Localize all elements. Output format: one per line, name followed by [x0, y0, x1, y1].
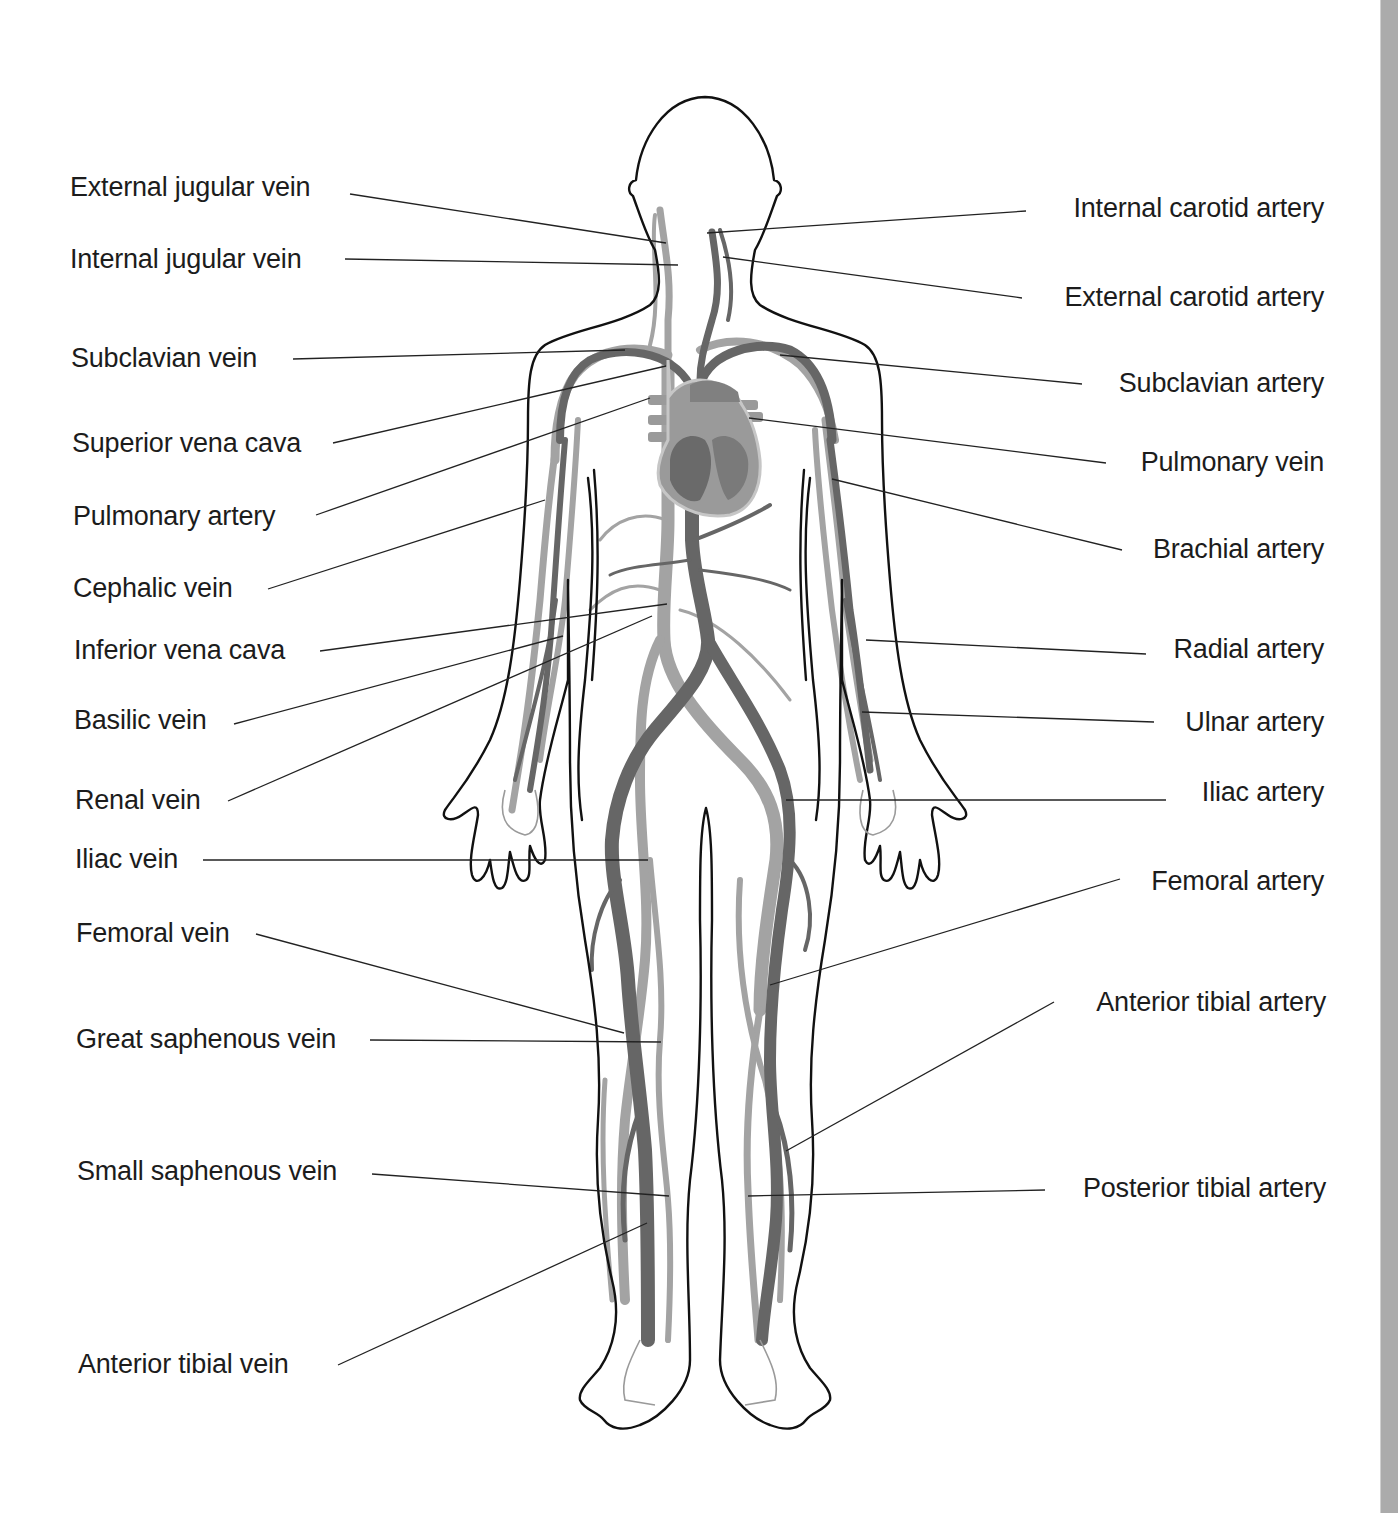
leader-lines: [203, 194, 1166, 1365]
label-inferior-vena-cava: Inferior vena cava: [74, 637, 285, 664]
leader-line: [749, 418, 1106, 463]
label-femoral-vein: Femoral vein: [76, 920, 230, 947]
label-internal-carotid-artery: Internal carotid artery: [1073, 195, 1324, 222]
leader-line: [256, 934, 624, 1033]
label-cephalic-vein: Cephalic vein: [73, 575, 233, 602]
label-pulmonary-artery: Pulmonary artery: [73, 503, 275, 530]
leader-line: [723, 257, 1022, 298]
leader-line: [832, 479, 1122, 550]
vertical-scrollbar[interactable]: [1380, 0, 1398, 1513]
leader-line: [370, 1040, 661, 1042]
leader-line: [707, 211, 1026, 233]
label-external-carotid-artery: External carotid artery: [1064, 284, 1324, 311]
label-femoral-artery: Femoral artery: [1151, 868, 1324, 895]
leader-line: [320, 604, 667, 651]
leader-line: [293, 350, 625, 359]
label-great-saphenous-vein: Great saphenous vein: [76, 1026, 336, 1053]
label-superior-vena-cava: Superior vena cava: [72, 430, 301, 457]
label-radial-artery: Radial artery: [1174, 636, 1324, 663]
label-brachial-artery: Brachial artery: [1153, 536, 1324, 563]
label-basilic-vein: Basilic vein: [74, 707, 207, 734]
label-small-saphenous-vein: Small saphenous vein: [77, 1158, 337, 1185]
circulatory-diagram: External jugular vein Internal jugular v…: [0, 0, 1398, 1513]
label-ulnar-artery: Ulnar artery: [1185, 709, 1324, 736]
leader-line: [770, 879, 1120, 985]
label-anterior-tibial-artery: Anterior tibial artery: [1096, 989, 1326, 1016]
label-posterior-tibial-artery: Posterior tibial artery: [1083, 1175, 1326, 1202]
leader-line: [866, 640, 1146, 654]
leader-line: [333, 366, 666, 443]
label-iliac-artery: Iliac artery: [1202, 779, 1324, 806]
leader-line: [780, 355, 1082, 384]
label-pulmonary-vein: Pulmonary vein: [1141, 449, 1324, 476]
leader-line: [862, 712, 1154, 722]
label-anterior-tibial-vein: Anterior tibial vein: [78, 1351, 289, 1378]
body-illustration: [0, 0, 1398, 1513]
label-iliac-vein: Iliac vein: [75, 846, 178, 873]
leader-line: [345, 259, 678, 265]
label-external-jugular-vein: External jugular vein: [70, 174, 310, 201]
leader-line: [350, 194, 666, 243]
label-renal-vein: Renal vein: [75, 787, 201, 814]
label-subclavian-artery: Subclavian artery: [1119, 370, 1324, 397]
leader-line: [786, 1002, 1054, 1151]
leader-line: [316, 398, 650, 515]
label-subclavian-vein: Subclavian vein: [71, 345, 257, 372]
label-internal-jugular-vein: Internal jugular vein: [70, 246, 301, 273]
leader-line: [268, 500, 545, 589]
leader-line: [338, 1223, 647, 1365]
